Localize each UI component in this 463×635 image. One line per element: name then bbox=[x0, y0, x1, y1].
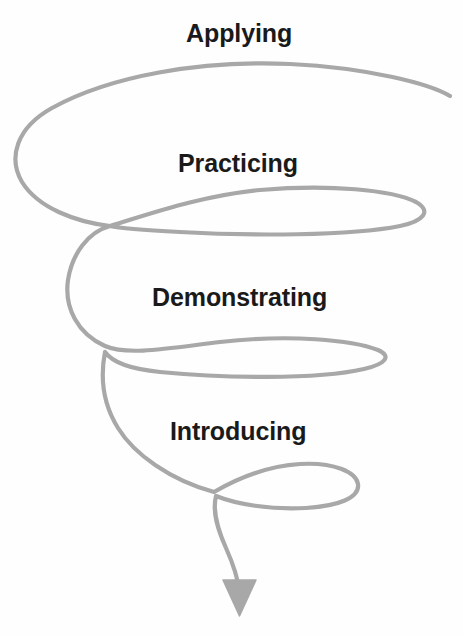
arrowhead-icon bbox=[223, 580, 256, 616]
stage-label-introducing: Introducing bbox=[170, 419, 306, 444]
spiral-diagram: Applying Practicing Demonstrating Introd… bbox=[0, 0, 463, 635]
stage-label-demonstrating: Demonstrating bbox=[152, 285, 327, 310]
spiral-path bbox=[15, 63, 450, 590]
stage-label-applying: Applying bbox=[186, 21, 292, 46]
spiral-curve-graphic bbox=[0, 0, 463, 635]
stage-label-practicing: Practicing bbox=[178, 151, 298, 176]
